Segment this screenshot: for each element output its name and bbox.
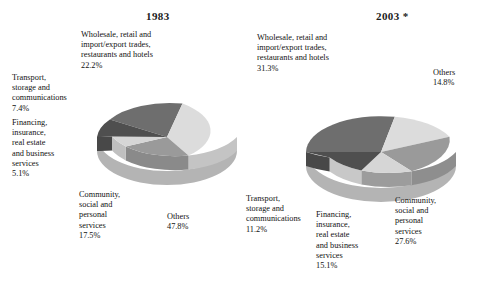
pie-2003-slices xyxy=(306,116,450,173)
slice-others-2003 xyxy=(381,117,450,152)
label-community-1983: Community, social and personal services … xyxy=(79,190,120,241)
label-financing-2003: Financing, insurance, real estate and bu… xyxy=(316,210,358,271)
label-wholesale-2003: Wholesale, retail and import/export trad… xyxy=(257,33,329,74)
label-others-1983: Others 47.8% xyxy=(167,212,189,232)
slice-transport-2003 xyxy=(306,152,381,170)
slice-financing-2003 xyxy=(361,152,412,173)
label-transport-2003: Transport, storage and communications 11… xyxy=(246,194,301,235)
label-wholesale-1983: Wholesale, retail and import/export trad… xyxy=(81,30,153,71)
pie-panel-1983: 1983 xyxy=(0,0,242,289)
label-others-2003: Others 14.8% xyxy=(433,68,455,88)
label-transport-1983: Transport, storage and communications 7.… xyxy=(12,73,67,114)
pie-2003-side-walls xyxy=(306,152,456,202)
label-community-2003: Community, social and personal services … xyxy=(395,196,436,247)
chart-title-1983: 1983 xyxy=(146,10,170,22)
pie-chart-2003 xyxy=(301,72,461,232)
slice-community-2003 xyxy=(381,137,450,171)
label-financing-1983: Financing, insurance, real estate and bu… xyxy=(12,118,54,179)
slice-wholesale-2003 xyxy=(306,116,395,152)
chart-title-2003: 2003 * xyxy=(376,10,409,22)
